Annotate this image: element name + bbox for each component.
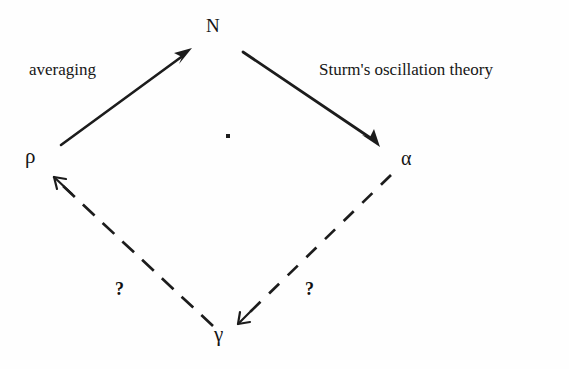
edge-label-question-left: ? [115,280,124,298]
edge-label-averaging: averaging [29,61,96,78]
node-label-gamma: γ [214,324,223,345]
edge-gamma-to-rho-line [63,186,213,326]
node-label-rho: ρ [25,146,35,167]
diagram-edges-layer [0,0,569,369]
diagram-canvas: N ρ α γ averaging Sturm's oscillation th… [0,0,569,369]
edge-gamma-to-rho-arrowhead [54,177,72,194]
edge-gamma-to-rho [54,177,213,326]
edge-N-to-alpha-arrowhead [362,129,380,147]
node-label-N: N [206,16,220,35]
edge-alpha-to-gamma-arrowhead [238,310,252,324]
node-label-alpha: α [401,148,411,168]
edge-alpha-to-gamma [238,175,391,324]
edge-label-question-right: ? [305,280,314,298]
edge-alpha-to-gamma-line [249,175,391,313]
center-dot-mark [226,134,230,138]
edge-label-sturm-oscillation-theory: Sturm's oscillation theory [319,61,493,78]
